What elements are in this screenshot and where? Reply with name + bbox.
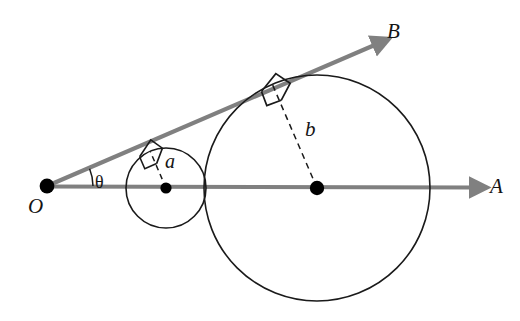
label-vertex-O: O [28,194,43,218]
label-ray-A: A [488,174,503,198]
geometry-diagram: O A B θ a b [0,0,520,321]
angle-arc [90,169,93,186]
label-ray-B: B [387,19,400,43]
ray-OB [47,44,377,186]
small-circle-center-dot [160,182,171,193]
ray-OA [47,187,474,188]
small-circle-radius-line [150,151,166,188]
geometry-canvas: O A B θ a b [0,0,520,321]
vertex-dot [40,179,55,194]
label-angle-theta: θ [95,172,104,192]
large-circle-center-dot [310,181,324,195]
label-radius-a: a [165,150,175,172]
label-radius-b: b [305,117,316,141]
